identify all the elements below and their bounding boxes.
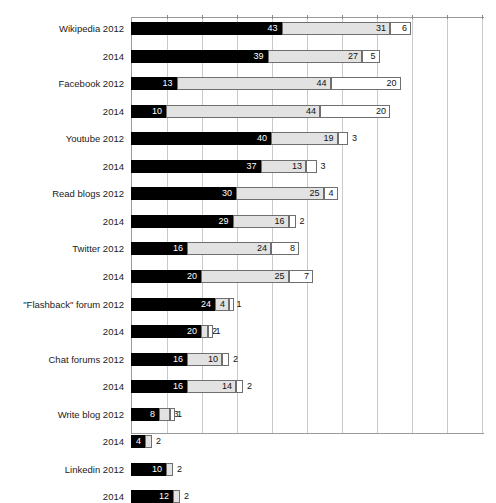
segment-value-label: 31: [376, 23, 386, 33]
bar-segment: [222, 353, 229, 366]
segment-value-label: 43: [267, 23, 277, 33]
bar-row: Write blog 2012831: [0, 408, 496, 421]
category-label: 2014: [103, 50, 124, 63]
category-label: 2014: [103, 325, 124, 338]
category-label: 2014: [103, 490, 124, 503]
category-label: Linkedin 2012: [65, 463, 124, 476]
bar-segment: [208, 325, 213, 338]
bar-segment: 5: [362, 50, 380, 63]
bar-segment: 20: [320, 105, 390, 118]
bar-segment: 8: [131, 408, 159, 421]
x-tick-90: [447, 15, 448, 19]
segment-value-label: 40: [257, 133, 267, 143]
bar-segment: 44: [166, 105, 320, 118]
segment-value-label: 27: [348, 51, 358, 61]
x-tick-70: [377, 15, 378, 19]
bar-segment: 4: [131, 435, 145, 448]
x-tick-50: [307, 15, 308, 19]
bar-row: Facebook 2012134420: [0, 77, 496, 90]
segment-value-label: 44: [306, 106, 316, 116]
bar-segment: 44: [177, 77, 331, 90]
segment-value-label: 20: [386, 78, 396, 88]
segment-value-label: 29: [218, 216, 228, 226]
x-tick-10: [167, 15, 168, 19]
bar-segment: 24: [131, 298, 215, 311]
segment-value-label: 6: [402, 23, 407, 33]
segment-value-label: 20: [187, 326, 197, 336]
bar-segment: 25: [236, 187, 324, 200]
bar-segment: 14: [187, 380, 236, 393]
segment-value-label: 2: [181, 490, 189, 503]
segment-value-label: 8: [150, 409, 155, 419]
bar-row: 201439275: [0, 50, 496, 63]
bar-row: 201416142: [0, 380, 496, 393]
segment-value-label: 10: [152, 464, 162, 474]
segment-value-label: 16: [173, 243, 183, 253]
bar-segment: [166, 463, 173, 476]
x-tick-20: [202, 15, 203, 19]
bar-segment: 40: [131, 132, 271, 145]
segment-value-label: 2: [297, 215, 305, 228]
bar-segment: 8: [271, 242, 299, 255]
bar-segment: 20: [131, 325, 201, 338]
segment-value-label: 7: [304, 271, 309, 281]
segment-value-label: 1: [234, 298, 242, 311]
x-tick-40: [272, 15, 273, 19]
bar-segment: 31: [282, 22, 391, 35]
category-label: 2014: [103, 380, 124, 393]
bar-segment: [173, 490, 180, 503]
bar-segment: [229, 298, 234, 311]
bar-segment: [236, 380, 243, 393]
bar-row: 201420257: [0, 270, 496, 283]
segment-value-label: 16: [173, 354, 183, 364]
segment-value-label: 24: [201, 299, 211, 309]
category-label: 2014: [103, 105, 124, 118]
segment-value-label: 13: [162, 78, 172, 88]
bar-segment: [145, 435, 152, 448]
bar-segment: 16: [233, 215, 289, 228]
bar-segment: 4: [215, 298, 229, 311]
segment-value-label: 3: [349, 132, 357, 145]
bar-segment: [289, 215, 296, 228]
bar-segment: 20: [331, 77, 401, 90]
bar-segment: [201, 325, 208, 338]
segment-value-label: 4: [220, 299, 225, 309]
bar-segment: 27: [268, 50, 363, 63]
category-label: 2014: [103, 270, 124, 283]
category-label: Twitter 2012: [72, 242, 124, 255]
bar-segment: 39: [131, 50, 268, 63]
segment-value-label: 5: [370, 51, 375, 61]
bar-segment: [159, 408, 170, 421]
bar-segment: 6: [390, 22, 411, 35]
bar-segment: 25: [201, 270, 289, 283]
category-label: Chat forums 2012: [48, 353, 124, 366]
segment-value-label: 3: [318, 160, 326, 173]
segment-value-label: 4: [328, 188, 333, 198]
segment-value-label: 8: [290, 243, 295, 253]
segment-value-label: 25: [274, 271, 284, 281]
bar-row: "Flashback" forum 20122441: [0, 298, 496, 311]
category-label: Youtube 2012: [66, 132, 124, 145]
bar-segment: 29: [131, 215, 233, 228]
bar-segment: 16: [131, 353, 187, 366]
segment-value-label: 30: [222, 188, 232, 198]
category-label: 2014: [103, 215, 124, 228]
category-label: "Flashback" forum 2012: [23, 298, 124, 311]
bar-row: Wikipedia 201243316: [0, 22, 496, 35]
segment-value-label: 2: [153, 435, 161, 448]
category-label: Wikipedia 2012: [59, 22, 124, 35]
bar-segment: 13: [261, 160, 307, 173]
segment-value-label: 39: [253, 51, 263, 61]
segment-value-label: 14: [222, 381, 232, 391]
category-label: Write blog 2012: [58, 408, 124, 421]
segment-value-label: 19: [323, 133, 333, 143]
x-tick-80: [412, 15, 413, 19]
category-label: Read blogs 2012: [52, 187, 124, 200]
segment-value-label: 20: [376, 106, 386, 116]
segment-value-label: 1: [174, 408, 182, 421]
segment-value-label: 2: [244, 380, 252, 393]
bar-segment: 10: [187, 353, 222, 366]
bar-row: 201442: [0, 435, 496, 448]
x-tick-100: [482, 15, 483, 19]
